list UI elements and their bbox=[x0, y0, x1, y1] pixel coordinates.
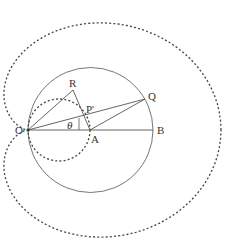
label-A: A bbox=[91, 133, 99, 145]
label-theta: θ bbox=[67, 119, 73, 131]
label-B: B bbox=[157, 124, 164, 136]
label-R: R bbox=[69, 77, 77, 89]
geometry-figure: O R Q P' A B θ bbox=[0, 0, 230, 252]
diagram: O R Q P' A B θ bbox=[0, 0, 230, 252]
label-Q: Q bbox=[148, 90, 156, 102]
point-O bbox=[27, 129, 30, 132]
line-AQ bbox=[90, 99, 145, 130]
label-P-prime: P' bbox=[86, 103, 94, 115]
label-O: O bbox=[15, 124, 23, 136]
